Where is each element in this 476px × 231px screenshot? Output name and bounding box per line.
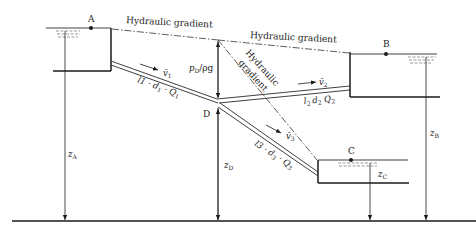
elevation-zd: zD: [218, 108, 233, 220]
svg-text:v̄1: v̄1: [163, 68, 172, 79]
elevation-zb: zB: [426, 57, 439, 220]
point-c: [349, 158, 353, 162]
label-d: D: [203, 109, 210, 119]
hydraulic-gradient-ad: [112, 29, 218, 40]
reservoir-b: B: [350, 39, 440, 97]
hydraulic-gradient-label-db: Hydraulic gradient: [250, 30, 337, 45]
hydraulic-gradient-label-ad: Hydraulic gradient: [126, 15, 213, 30]
label-b: B: [383, 39, 390, 49]
pressure-head-label: pD/ρg: [189, 63, 214, 74]
reservoir-c: C: [318, 146, 409, 183]
label-a: A: [87, 14, 95, 24]
svg-text:zA: zA: [67, 149, 77, 160]
label-c: C: [348, 146, 355, 156]
svg-text:zD: zD: [223, 160, 233, 171]
svg-text:zB: zB: [429, 128, 439, 139]
point-b: [384, 52, 388, 56]
elevation-za: zA: [65, 31, 77, 220]
svg-text:l2 d2 Q2: l2 d2 Q2: [303, 93, 335, 107]
pipe-1-labels: v̄1 l1 · d1 · Q1: [136, 64, 182, 100]
elevation-zc: zC: [370, 163, 387, 220]
svg-text:l3 · d3 · Q3: l3 · d3 · Q3: [252, 138, 295, 172]
velocity-arrow-2: [298, 82, 316, 84]
velocity-arrow-1: [140, 64, 158, 70]
svg-text:zC: zC: [377, 169, 387, 180]
three-reservoir-pipe-diagram: A B C Hydraulic gradient Hydraulic gradi…: [0, 0, 476, 231]
pipe-3-labels: v̄3 l3 · d3 · Q3: [252, 125, 295, 172]
svg-text:v̄2: v̄2: [319, 77, 328, 88]
svg-text:v̄3: v̄3: [286, 131, 295, 142]
point-a: [89, 26, 93, 30]
reservoir-a: A: [46, 14, 111, 71]
hydraulic-gradient-dc: [218, 40, 317, 160]
velocity-arrow-3: [266, 125, 281, 133]
